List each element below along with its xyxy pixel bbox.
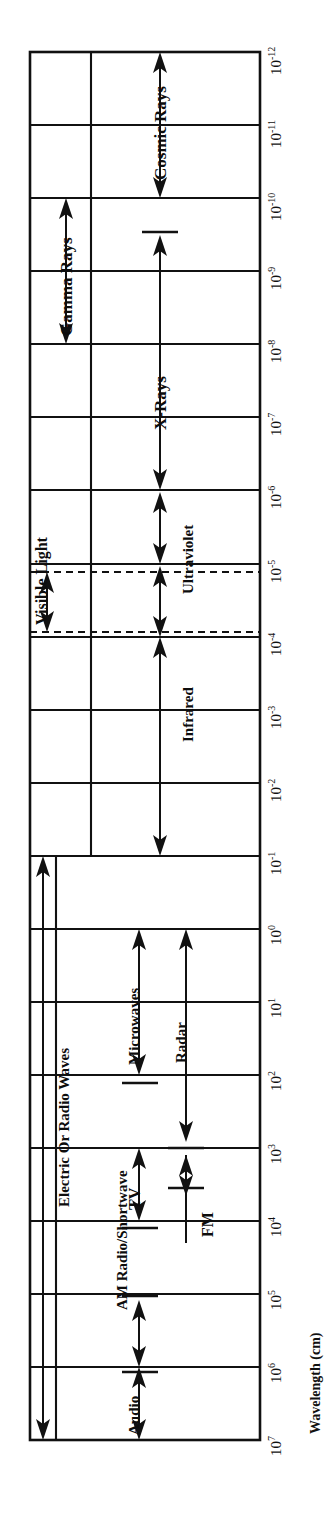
- tick-text: 105: [268, 1290, 284, 1310]
- tick-text: 10-9: [268, 267, 284, 290]
- band-label-gamma-rays: Gamma Rays: [57, 237, 77, 336]
- tick-text: 104: [268, 1217, 284, 1237]
- axis-tick-8: 10-4: [268, 633, 285, 656]
- axis-tick-16: 104: [268, 1217, 285, 1237]
- tick-text: 10-2: [268, 779, 284, 802]
- axis-tick-13: 101: [268, 998, 285, 1018]
- band-label-infrared: Infrared: [180, 687, 197, 742]
- band-arrow-ultraviolet: [153, 492, 167, 564]
- tick-text: 103: [268, 1144, 284, 1164]
- band-label-cosmic-rays: Cosmic Rays: [151, 86, 171, 180]
- tick-text: 106: [268, 1363, 284, 1383]
- tick-text: 102: [268, 1071, 284, 1091]
- axis-tick-6: 10-6: [268, 486, 285, 509]
- tick-text: 10-8: [268, 340, 284, 363]
- axis-tick-15: 103: [268, 1144, 285, 1164]
- axis-tick-0: 10-12: [268, 47, 285, 75]
- tick-text: 10-10: [268, 193, 284, 221]
- visible-light-center-arrow: [153, 566, 167, 637]
- band-label-visible-light: Visible Light: [33, 537, 51, 625]
- axis-tick-17: 105: [268, 1290, 285, 1310]
- axis-tick-9: 10-3: [268, 706, 285, 729]
- axis-tick-10: 10-2: [268, 779, 285, 802]
- tick-text: 10-6: [268, 486, 284, 509]
- axis-tick-5: 10-7: [268, 413, 285, 436]
- band-label-audio: Audio: [126, 1396, 143, 1435]
- tick-text: 10-7: [268, 413, 284, 436]
- axis-tick-7: 10-5: [268, 560, 285, 583]
- tick-text: 10-1: [268, 852, 284, 875]
- tick-text: 107: [268, 1436, 284, 1456]
- band-label-microwaves: Microwaves: [126, 988, 143, 1065]
- axis-tick-2: 10-10: [268, 193, 285, 221]
- tick-text: 101: [268, 998, 284, 1018]
- tick-text: 100: [268, 925, 284, 945]
- axis-tick-12: 100: [268, 925, 285, 945]
- tick-text: 10-3: [268, 706, 284, 729]
- axis-tick-3: 10-9: [268, 267, 285, 290]
- tick-text: 10-5: [268, 560, 284, 583]
- band-label-fm: FM: [199, 1212, 217, 1237]
- axis-tick-18: 106: [268, 1363, 285, 1383]
- band-label-electric-or-radio-waves: Electric Or Radio Waves: [56, 1048, 73, 1207]
- tick-text: 10-4: [268, 633, 284, 656]
- band-label-x-rays: X-Rays: [151, 376, 171, 430]
- band-label-radar: Radar: [173, 1022, 190, 1063]
- spectrum-figure: .fr { fill:none; stroke:#111; stroke-wid…: [0, 0, 336, 1514]
- axis-tick-1: 10-11: [268, 120, 285, 148]
- band-label-ultraviolet: Ultraviolet: [180, 525, 197, 594]
- visible-light-band: [30, 572, 260, 632]
- axis-tick-19: 107: [268, 1436, 285, 1456]
- spectrum-svg: .fr { fill:none; stroke:#111; stroke-wid…: [0, 0, 336, 1514]
- tick-text: 10-12: [268, 47, 284, 75]
- axis-tick-14: 102: [268, 1071, 285, 1091]
- axis-tick-11: 10-1: [268, 852, 285, 875]
- band-label-am-radio-shortwave: AM Radio/Shortwave: [114, 1170, 131, 1310]
- tick-text: 10-11: [268, 120, 284, 148]
- axis-tick-4: 10-8: [268, 340, 285, 363]
- band-arrow-infrared: [153, 637, 167, 856]
- axis-title: Wavelength (cm): [308, 1333, 324, 1434]
